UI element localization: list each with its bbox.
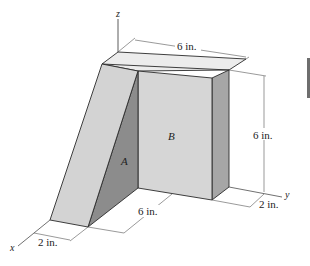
- dim-ext-top: [229, 70, 266, 76]
- block-b-side-face: [212, 70, 229, 200]
- dim-base-length: 6 in.: [138, 205, 158, 217]
- side-bar: [307, 58, 310, 98]
- z-axis-label: z: [115, 8, 120, 19]
- dim-ext-right: [212, 200, 250, 207]
- y-axis-line: [229, 187, 282, 197]
- composite-body-diagram: z A B 6 in. 6 in. y 2 in.: [0, 0, 310, 266]
- part-a-label: A: [120, 155, 128, 167]
- part-b-label: B: [168, 130, 175, 142]
- dim-base-width: 2 in.: [38, 236, 58, 248]
- block-b-front-face: [138, 71, 212, 200]
- dim-ext-base: [88, 227, 124, 233]
- dim-line-top: [246, 57, 249, 59]
- dim-line-top: [118, 38, 135, 52]
- dim-depth-right: 2 in.: [259, 198, 279, 210]
- dim-height: 6 in.: [253, 129, 273, 141]
- dim-ext-base-width: [70, 227, 88, 241]
- dim-top-width: 6 in.: [177, 40, 197, 52]
- x-axis-label: x: [9, 242, 15, 253]
- y-axis-label: y: [284, 189, 290, 200]
